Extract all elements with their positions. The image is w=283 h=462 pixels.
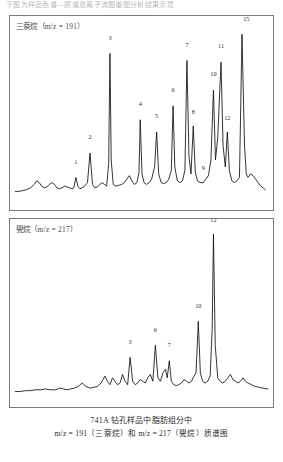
chromatogram-trace-terpane: [15, 34, 265, 191]
trace-svg-sterane: [10, 219, 273, 407]
figure-page: 下图为样品色谱—质谱总离子流图谱图分析结果示意 三萘烷（m/z = 191） 1…: [0, 0, 283, 462]
figure-caption: 741A 钻孔样品中脂肪组分中 m/z = 191（三萘烷）和 m/z = 21…: [9, 414, 274, 440]
caption-line-1: 741A 钻孔样品中脂肪组分中: [9, 414, 274, 427]
chart-panels-container: 三萘烷（m/z = 191） 12345678910111215 甖烷（m/z …: [0, 15, 283, 440]
trace-svg-terpane: [10, 16, 273, 210]
chromatogram-trace-sterane: [15, 234, 267, 391]
document-header-text: 下图为样品色谱—质谱总离子流图谱图分析结果示意: [0, 0, 283, 15]
plot-area-sterane: [10, 219, 273, 407]
chromatogram-panel-terpane[interactable]: 三萘烷（m/z = 191） 12345678910111215: [9, 15, 274, 211]
plot-area-terpane: [10, 16, 273, 210]
chromatogram-panel-sterane[interactable]: 甖烷（m/z = 217） 3671012: [9, 218, 274, 408]
caption-line-2: m/z = 191（三萘烷）和 m/z = 217（甖烷）质谱图: [9, 427, 274, 440]
